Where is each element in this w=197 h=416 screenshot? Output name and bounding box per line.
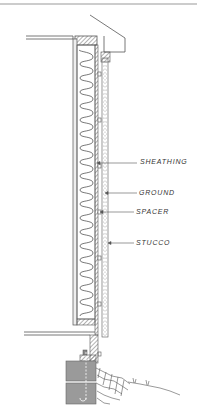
ceiling-top — [26, 36, 73, 39]
interior-board — [73, 39, 77, 325]
floor-line — [24, 332, 95, 335]
bottom-plate — [77, 319, 95, 325]
sheathing-layer — [95, 45, 98, 335]
label-sheathing: SHEATHING — [140, 158, 188, 166]
label-spacer: SPACER — [136, 208, 169, 216]
label-ground: GROUND — [139, 189, 175, 197]
spacers — [98, 72, 101, 356]
insulation — [79, 50, 93, 316]
grade-earth — [96, 368, 180, 404]
sill-plate — [80, 355, 96, 361]
foundation-block-1 — [66, 361, 96, 381]
stucco-layer — [102, 58, 108, 337]
label-stucco: STUCCO — [136, 239, 170, 247]
top-plate — [75, 36, 97, 45]
